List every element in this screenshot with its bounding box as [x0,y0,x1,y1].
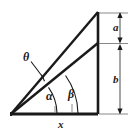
geometry-figure: θ α β a b x [0,0,133,136]
angle-label-theta: θ [23,51,29,63]
theta-leader-line [31,62,44,79]
dimension-arrowhead-b-top [117,44,122,50]
angle-label-beta: β [68,88,74,100]
dimension-label-b: b [113,74,119,85]
dimension-arrowhead-a-bottom [117,38,122,44]
dimension-label-x: x [58,119,64,130]
angle-label-alpha: α [46,90,53,102]
dimension-label-a: a [113,22,119,33]
